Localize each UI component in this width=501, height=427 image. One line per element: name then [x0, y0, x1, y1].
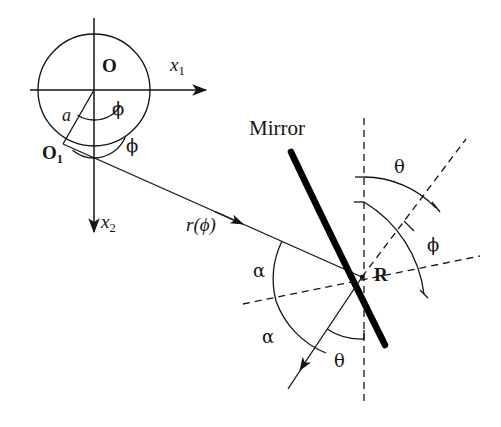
incident-ray-arrowhead — [215, 212, 243, 225]
label-ray-r-phi: r(ϕ) — [186, 215, 216, 234]
alpha-lower-arc — [276, 301, 326, 353]
normal-dashed-line — [362, 139, 466, 277]
theta-upper-arc-tick-normal — [432, 202, 440, 212]
theta-upper-arc — [364, 177, 436, 208]
diagram-canvas: O O1 x1 x2 a ϕ ϕ r(ϕ) Mirror R θ ϕ α α θ — [0, 0, 501, 427]
mirror-curve — [291, 152, 385, 345]
label-origin-O: O — [102, 56, 117, 75]
label-theta-lower: θ — [334, 352, 345, 370]
label-origin-O1-main: O — [42, 142, 57, 163]
theta-lower-arc — [327, 329, 364, 339]
phi-upper-arc — [78, 115, 94, 120]
label-axis-x1: x1 — [170, 55, 185, 77]
phi-right-arc-tick-cross — [404, 221, 414, 231]
label-axis-x2: x2 — [101, 212, 116, 234]
label-alpha-lower: α — [262, 328, 274, 346]
label-axis-x1-index: 1 — [178, 64, 184, 78]
label-radius-a: a — [62, 106, 71, 124]
reflected-ray — [300, 277, 362, 370]
label-mirror: Mirror — [249, 118, 305, 139]
alpha-upper-arc — [273, 241, 282, 301]
reflected-ray-tail — [288, 366, 303, 389]
label-phi-upper: ϕ — [112, 100, 124, 118]
phi-right-arc — [364, 202, 424, 294]
reflection-point-dot — [360, 275, 365, 280]
label-reflection-point-R: R — [374, 265, 388, 284]
label-theta-upper: θ — [394, 158, 405, 176]
label-origin-O1: O1 — [42, 143, 63, 165]
label-alpha-upper: α — [253, 262, 265, 280]
phi-lower-arc — [94, 137, 125, 158]
label-axis-x2-index: 2 — [109, 221, 115, 235]
figure-vector-layer — [0, 0, 501, 427]
label-phi-lower: ϕ — [126, 137, 138, 155]
label-origin-O1-index: 1 — [57, 152, 63, 166]
label-phi-right: ϕ — [427, 236, 439, 254]
